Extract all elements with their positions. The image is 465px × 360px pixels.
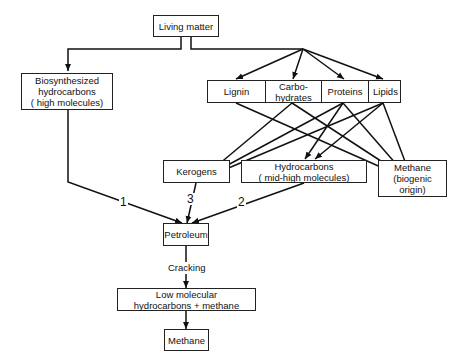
node-petroleum: Petroleum (163, 223, 209, 246)
label-cracking: Cracking (167, 262, 207, 274)
node-living-matter: Living matter (153, 15, 219, 37)
node-components-row: Lignin Carbo- hydrates Proteins Lipids (207, 80, 401, 103)
node-lignin: Lignin (208, 81, 265, 102)
label-path-2: 2 (237, 196, 246, 208)
node-hydrocarbons-mid-high: Hydrocarbons ( mid-high molecules) (241, 160, 367, 183)
label-path-1: 1 (119, 196, 128, 208)
node-lipids: Lipids (368, 81, 402, 102)
label-path-3: 3 (186, 193, 195, 205)
node-methane: Methane (164, 329, 209, 351)
node-biosynthesized-hydrocarbons: Biosynthesized hydrocarbons ( high molec… (21, 73, 113, 110)
node-carbohydrates: Carbo- hydrates (265, 81, 321, 102)
node-kerogens: Kerogens (163, 160, 230, 183)
node-proteins: Proteins (321, 81, 368, 102)
node-methane-biogenic: Methane (biogenic origin) (378, 160, 447, 197)
node-low-molecular-hydrocarbons: Low molecular hydrocarbons + methane (117, 288, 256, 311)
